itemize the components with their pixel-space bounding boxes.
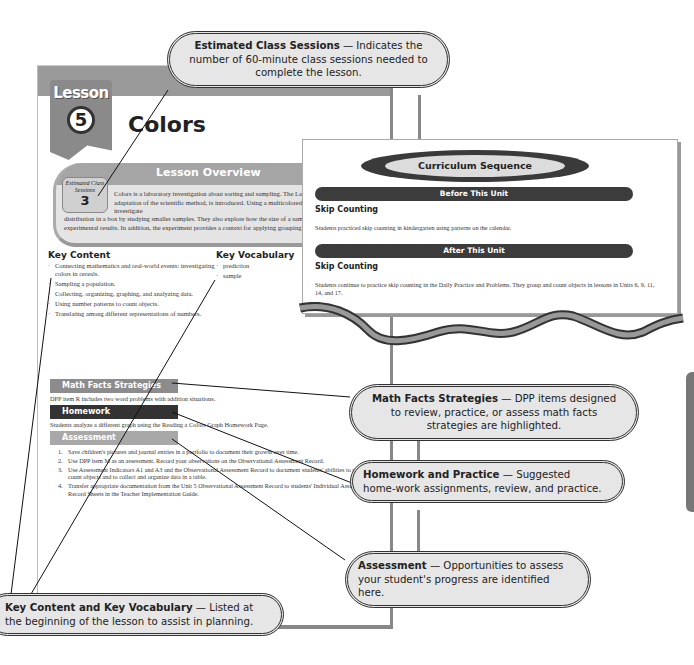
callout-homework: Homework and Practice — Suggested home-w… [350, 460, 625, 503]
callout-estimated-sessions: Estimated Class Sessions — Indicates the… [167, 31, 450, 88]
callout-assessment: Assessment — Opportunities to assess you… [345, 551, 591, 608]
callout-math-facts: Math Facts Strategies — DPP items design… [349, 384, 639, 441]
callout-key-content: Key Content and Key Vocabulary — Listed … [0, 593, 284, 636]
leader-lines [0, 0, 694, 665]
